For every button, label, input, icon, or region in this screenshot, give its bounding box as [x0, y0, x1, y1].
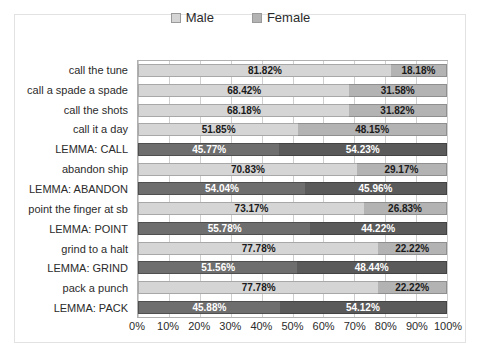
bar-segment-female: 29.17% [357, 163, 447, 176]
bar-segment-male: 45.88% [138, 301, 280, 314]
x-tick-label: 100% [434, 320, 462, 332]
bar-segment-female: 31.58% [349, 84, 447, 97]
legend-item-male: Male [171, 11, 214, 24]
category-label: LEMMA: POINT [18, 219, 132, 239]
bar-row: 51.56%48.44% [138, 258, 447, 278]
x-tick-label: 40% [250, 320, 272, 332]
bar-segment-female: 48.44% [297, 261, 447, 274]
x-tick-label: 50% [281, 320, 303, 332]
chart-container: Male Female call the tunecall a spade a … [0, 0, 481, 358]
x-axis: 0%10%20%30%40%50%60%70%80%90%100% [137, 320, 448, 338]
bar-segment-male: 68.18% [138, 104, 349, 117]
category-label: LEMMA: GRIND [18, 258, 132, 278]
bar-segment-male: 81.82% [138, 64, 391, 77]
category-label: grind to a halt [18, 239, 132, 259]
bar-rows: 81.82%18.18%68.42%31.58%68.18%31.82%51.8… [138, 61, 447, 317]
bar-segment-male: 51.85% [138, 123, 298, 136]
legend-swatch-male [171, 13, 181, 23]
x-tick-label: 70% [344, 320, 366, 332]
bar-track: 68.42%31.58% [138, 84, 447, 97]
bar-segment-male: 77.78% [138, 242, 378, 255]
x-tick-label: 90% [406, 320, 428, 332]
chart-legend: Male Female [0, 11, 481, 24]
bar-segment-male: 77.78% [138, 281, 378, 294]
bar-row: 55.78%44.22% [138, 219, 447, 239]
category-label: call the tune [18, 60, 132, 80]
category-label: abandon ship [18, 159, 132, 179]
bar-track: 77.78%22.22% [138, 242, 447, 255]
bar-track: 70.83%29.17% [138, 163, 447, 176]
x-tick-label: 0% [129, 320, 145, 332]
bar-row: 54.04%45.96% [138, 179, 447, 199]
bar-segment-female: 44.22% [310, 222, 447, 235]
bar-row: 70.83%29.17% [138, 159, 447, 179]
bar-track: 81.82%18.18% [138, 64, 447, 77]
category-label: point the finger at sb [18, 199, 132, 219]
category-label: call it a day [18, 120, 132, 140]
bar-track: 55.78%44.22% [138, 222, 447, 235]
legend-item-female: Female [252, 11, 310, 24]
category-label: LEMMA: PACK [18, 298, 132, 318]
plot-area: 81.82%18.18%68.42%31.58%68.18%31.82%51.8… [137, 60, 448, 318]
bar-segment-female: 31.82% [349, 104, 447, 117]
bar-row: 45.77%54.23% [138, 140, 447, 160]
bar-track: 77.78%22.22% [138, 281, 447, 294]
category-label: LEMMA: ABANDON [18, 179, 132, 199]
legend-label-male: Male [186, 11, 214, 24]
bar-row: 45.88%54.12% [138, 297, 447, 317]
bar-segment-male: 55.78% [138, 222, 310, 235]
bar-segment-female: 54.12% [280, 301, 447, 314]
bar-row: 51.85%48.15% [138, 120, 447, 140]
x-tick-label: 80% [375, 320, 397, 332]
bar-segment-female: 22.22% [378, 281, 447, 294]
bar-row: 73.17%26.83% [138, 199, 447, 219]
bar-track: 51.56%48.44% [138, 261, 447, 274]
bar-row: 68.42%31.58% [138, 81, 447, 101]
x-tick-label: 10% [157, 320, 179, 332]
bar-row: 81.82%18.18% [138, 61, 447, 81]
category-axis: call the tunecall a spade a spadecall th… [18, 60, 132, 318]
bar-segment-female: 26.83% [364, 202, 447, 215]
bar-segment-female: 54.23% [279, 143, 447, 156]
bar-segment-female: 48.15% [298, 123, 447, 136]
bar-track: 68.18%31.82% [138, 104, 447, 117]
category-label: call the shots [18, 100, 132, 120]
bar-track: 73.17%26.83% [138, 202, 447, 215]
category-label: pack a punch [18, 278, 132, 298]
bar-segment-female: 22.22% [378, 242, 447, 255]
gridline [447, 61, 448, 317]
legend-swatch-female [252, 13, 262, 23]
bar-segment-male: 54.04% [138, 182, 305, 195]
bar-row: 68.18%31.82% [138, 100, 447, 120]
bar-track: 45.77%54.23% [138, 143, 447, 156]
bar-row: 77.78%22.22% [138, 238, 447, 258]
bar-track: 54.04%45.96% [138, 182, 447, 195]
bar-segment-male: 45.77% [138, 143, 279, 156]
bar-segment-male: 68.42% [138, 84, 349, 97]
bar-row: 77.78%22.22% [138, 278, 447, 298]
x-tick-label: 30% [219, 320, 241, 332]
x-tick-label: 60% [313, 320, 335, 332]
legend-label-female: Female [267, 11, 310, 24]
category-label: LEMMA: CALL [18, 139, 132, 159]
x-tick-label: 20% [188, 320, 210, 332]
bar-segment-female: 18.18% [391, 64, 447, 77]
bar-track: 51.85%48.15% [138, 123, 447, 136]
bar-segment-male: 73.17% [138, 202, 364, 215]
bar-segment-male: 51.56% [138, 261, 297, 274]
bar-track: 45.88%54.12% [138, 301, 447, 314]
bar-segment-male: 70.83% [138, 163, 357, 176]
category-label: call a spade a spade [18, 80, 132, 100]
bar-segment-female: 45.96% [305, 182, 447, 195]
